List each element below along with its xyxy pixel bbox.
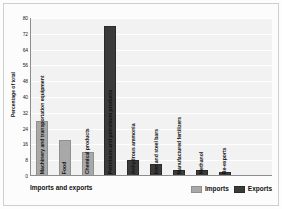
y-tick-label: 56: [23, 63, 28, 68]
bar-label: Manufactured fertilizers: [176, 117, 181, 174]
bar-label: Chemical products: [85, 128, 90, 174]
y-tick-label: 48: [23, 79, 28, 84]
y-tick-label: 24: [23, 126, 28, 131]
legend-item: Imports: [191, 186, 229, 193]
bar-label: Machinery and transportation equipment: [39, 75, 44, 174]
bar-label: Iron and steel bars: [153, 129, 158, 174]
bar-label: Food: [62, 162, 67, 174]
gridline: [30, 129, 272, 130]
y-tick-label: 16: [23, 142, 28, 147]
legend-label: Exports: [248, 186, 272, 193]
plot-area: Machinery and transportation equipmentFo…: [30, 18, 272, 176]
y-tick-label: 72: [23, 31, 28, 36]
x-axis-title: Imports and exports: [30, 185, 92, 192]
y-tick-label: 8: [25, 158, 28, 163]
chart-legend: ImportsExports: [191, 186, 272, 193]
gridline: [30, 113, 272, 114]
legend-swatch: [191, 186, 202, 193]
x-axis-line: [30, 175, 272, 176]
gridline: [30, 18, 272, 19]
y-tick-label: 0: [25, 174, 28, 179]
chart-figure: Machinery and transportation equipmentFo…: [0, 0, 282, 209]
legend-swatch: [234, 186, 245, 193]
gridline: [30, 97, 272, 98]
legend-label: Imports: [205, 186, 229, 193]
bar-label: Methanol: [199, 152, 204, 174]
gridline: [30, 34, 272, 35]
y-tick-label: 80: [23, 16, 28, 21]
gridline: [30, 50, 272, 51]
y-axis-title: Percentage of total: [11, 60, 16, 130]
y-tick-label: 32: [23, 110, 28, 115]
y-axis-line: [30, 18, 31, 176]
bar-label: Petroleum and petroleum products: [108, 89, 113, 174]
gridline: [30, 81, 272, 82]
legend-item: Exports: [234, 186, 272, 193]
bar-label: Anhydrous ammonia: [131, 123, 136, 174]
gridline: [30, 65, 272, 66]
y-tick-label: 64: [23, 47, 28, 52]
y-tick-label: 40: [23, 95, 28, 100]
bar-label: Re-exports: [222, 147, 227, 174]
